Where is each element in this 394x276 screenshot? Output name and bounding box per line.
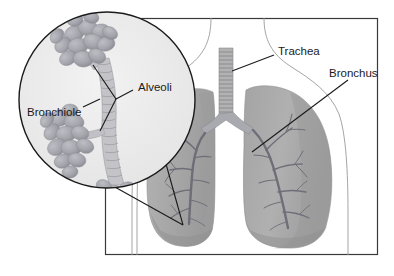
trachea	[219, 48, 233, 116]
shoulder-right-outline	[339, 114, 348, 256]
label-bronchus: Bronchus	[329, 67, 378, 79]
label-alveoli: Alveoli	[138, 81, 172, 93]
trachea-leader-line	[232, 55, 274, 71]
diagram-canvas: Trachea Bronchus Alveoli Bronchiole	[0, 0, 394, 276]
respiratory-system-illustration: Trachea Bronchus Alveoli Bronchiole	[0, 0, 394, 276]
label-trachea: Trachea	[278, 45, 320, 57]
label-bronchiole: Bronchiole	[27, 106, 81, 118]
